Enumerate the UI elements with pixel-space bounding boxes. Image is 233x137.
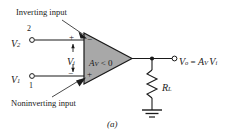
circuit-svg: [0, 0, 233, 137]
input-label-v1-subscript: 1: [17, 77, 20, 84]
noninverting-input-label: Noninverting input: [11, 99, 76, 108]
input-label-v1: V1: [11, 70, 20, 86]
input-label-v2-subscript: 2: [17, 41, 20, 48]
amplifier-noninverting-terminal-sign: +: [87, 70, 92, 79]
output-equals-sign: =: [188, 57, 198, 67]
amplifier-inverting-terminal-sign: −: [87, 35, 92, 44]
terminal-number-1: 1: [29, 82, 33, 90]
output-expression: Vo = AV Vi: [179, 52, 217, 68]
terminal-number-2: 2: [27, 25, 31, 33]
input-label-v2: V2: [11, 34, 20, 50]
inverting-input-label: Inverting input: [16, 8, 67, 17]
terminal-node-1: [30, 74, 35, 79]
vi-arrowhead-up: [71, 44, 75, 48]
load-resistor-label: RL: [162, 78, 172, 94]
differential-voltage-label: Vi: [67, 52, 75, 68]
figure-caption: (a): [107, 120, 118, 129]
amplifier-gain-relation: < 0: [98, 58, 112, 68]
leader-line-noninverting: [52, 80, 80, 97]
terminal-node-2: [30, 38, 35, 43]
vi-polarity-minus: −: [68, 69, 73, 78]
opamp-figure: Inverting input Noninverting input V2 2 …: [0, 0, 233, 137]
terminal-node-output: [172, 56, 177, 61]
output-input-subscript: i: [215, 59, 217, 66]
vi-polarity-plus: +: [69, 33, 74, 42]
amplifier-gain-label: AV < 0: [89, 53, 113, 69]
resistor-zigzag: [147, 70, 157, 98]
load-resistor-subscript: L: [168, 85, 172, 92]
differential-voltage-subscript: i: [73, 59, 75, 66]
